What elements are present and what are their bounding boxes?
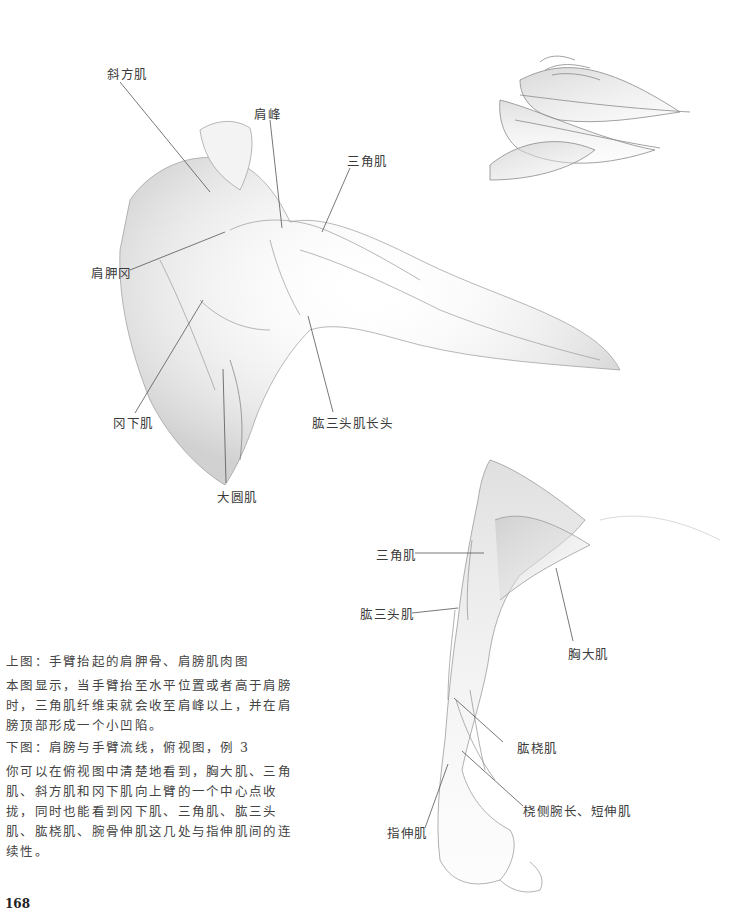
label-deltoid-top: 三角肌: [347, 151, 388, 170]
arm-top-view-sketch: [438, 460, 720, 892]
caption-top-body: 本图显示，当手臂抬至水平位置或者高于肩膀时，三角肌纤维束就会收至肩峰以上，并在肩…: [6, 676, 296, 736]
label-scapular-spine: 肩胛冈: [91, 263, 132, 282]
caption-bottom-title: 下图：肩膀与手臂流线，俯视图，例 3: [6, 738, 296, 758]
page-number: 168: [5, 897, 30, 911]
label-trapezius: 斜方肌: [107, 64, 148, 83]
caption-top: 上图：手臂抬起的肩胛骨、肩膀肌肉图 本图显示，当手臂抬至水平位置或者高于肩膀时，…: [6, 652, 296, 736]
label-teres-major: 大圆肌: [217, 487, 258, 506]
label-triceps-long-head: 肱三头肌长头: [312, 413, 393, 432]
label-ecr-longus-brevis: 桡侧腕长、短伸肌: [523, 801, 631, 820]
caption-bottom-body: 你可以在俯视图中清楚地看到，胸大肌、三角肌、斜方肌和冈下肌向上臂的一个中心点收拢…: [6, 762, 296, 862]
label-acromion: 肩峰: [254, 104, 281, 123]
label-extensor-digitorum: 指伸肌: [387, 823, 428, 842]
caption-bottom: 下图：肩膀与手臂流线，俯视图，例 3 你可以在俯视图中清楚地看到，胸大肌、三角肌…: [6, 738, 296, 862]
label-triceps: 肱三头肌: [360, 604, 414, 623]
deltoid-detail-sketch: [490, 56, 690, 180]
label-deltoid-bottom: 三角肌: [376, 545, 417, 564]
label-pectoralis-major: 胸大肌: [568, 644, 609, 663]
label-brachioradialis: 肱桡肌: [517, 738, 558, 757]
caption-top-title: 上图：手臂抬起的肩胛骨、肩膀肌肉图: [6, 652, 296, 672]
label-infraspinatus: 冈下肌: [113, 413, 154, 432]
